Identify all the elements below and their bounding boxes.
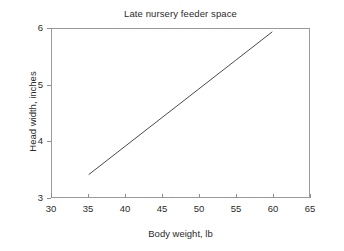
y-tick-label: 3 xyxy=(23,193,43,203)
series-line-head-width xyxy=(89,32,273,175)
x-tick-label: 40 xyxy=(110,204,140,214)
plot-area xyxy=(51,28,310,198)
y-tick-mark xyxy=(47,198,51,199)
x-tick-label: 50 xyxy=(184,204,214,214)
x-axis-label: Body weight, lb xyxy=(51,228,310,239)
x-tick-mark xyxy=(310,194,311,198)
x-tick-label: 35 xyxy=(73,204,103,214)
x-tick-label: 55 xyxy=(221,204,251,214)
y-axis-label: Head width, inches xyxy=(27,32,38,192)
x-tick-label: 45 xyxy=(147,204,177,214)
chart-figure: Late nursery feeder space 34563035404550… xyxy=(0,0,344,251)
chart-title: Late nursery feeder space xyxy=(51,8,310,19)
data-line-layer xyxy=(52,29,309,197)
x-tick-label: 30 xyxy=(36,204,66,214)
x-tick-label: 65 xyxy=(295,204,325,214)
x-tick-label: 60 xyxy=(258,204,288,214)
